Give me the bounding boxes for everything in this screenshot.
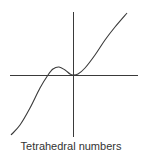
chart-caption: Tetrahedral numbers (0, 140, 142, 152)
tetrahedral-numbers-plot (0, 0, 142, 140)
tetrahedral-curve (11, 13, 127, 135)
